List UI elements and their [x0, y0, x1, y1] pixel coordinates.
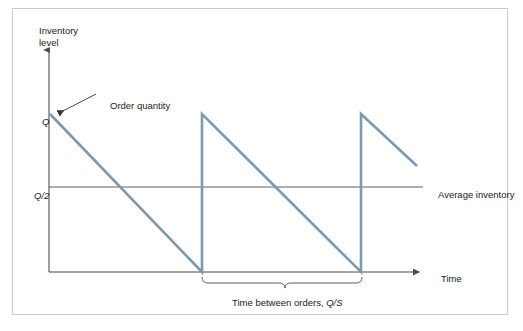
y-tick-label-q-half: Q/2 [34, 190, 49, 202]
y-axis-title: Inventory level [39, 25, 78, 49]
order-quantity-annotation: Order quantity [110, 100, 170, 112]
figure-frame: Inventory level Q Q/2 Order quantity Ave… [12, 8, 508, 315]
inventory-sawtooth-series [50, 114, 417, 272]
y-tick-label-q: Q [42, 116, 49, 128]
order-quantity-leader-line [59, 94, 96, 113]
figure-page: Inventory level Q Q/2 Order quantity Ave… [0, 0, 523, 331]
average-inventory-annotation: Average inventory [438, 189, 514, 201]
time-between-orders-text: Time between orders, [232, 297, 326, 308]
time-between-orders-brace [202, 277, 362, 288]
y-axis-title-line2: level [39, 37, 78, 49]
time-between-orders-annotation: Time between orders, Q/S [232, 297, 343, 309]
time-between-orders-symbol: Q/S [326, 297, 342, 308]
inventory-level-chart [13, 9, 509, 316]
y-axis-title-line1: Inventory [39, 25, 78, 37]
x-axis-title: Time [441, 273, 462, 285]
